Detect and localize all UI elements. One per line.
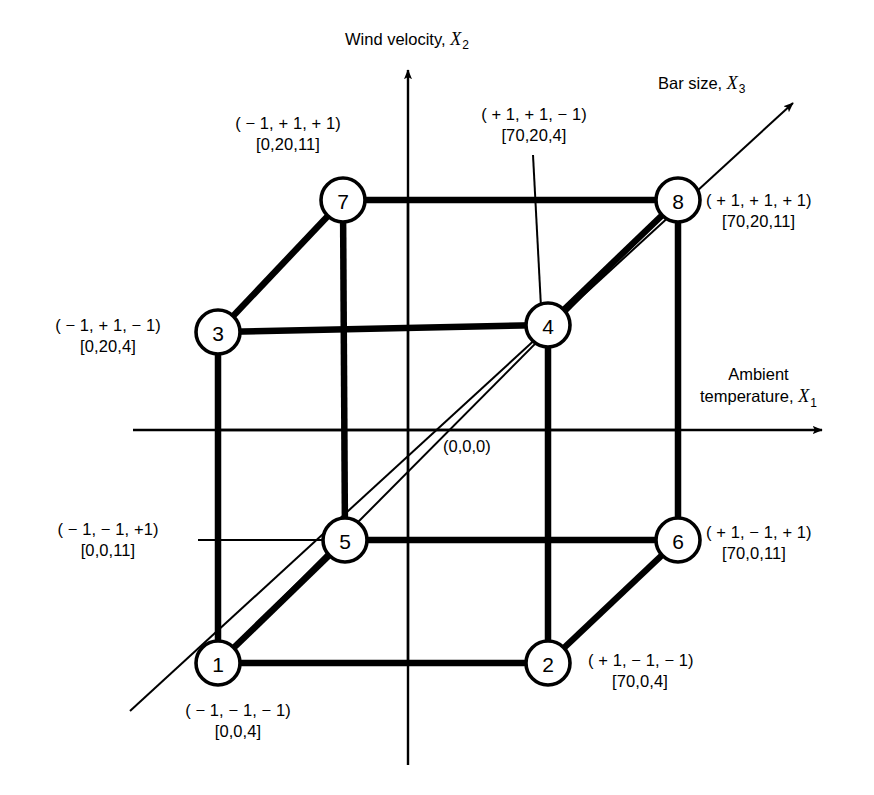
edge-7-5: [343, 200, 345, 540]
axis-label-x3: Bar size, X3: [658, 72, 745, 98]
vertex-caption-8-natural: [70,20,11]: [706, 211, 812, 232]
axis-label-x3-subscript: 3: [738, 82, 746, 96]
vertex-node-6[interactable]: 6: [656, 518, 700, 562]
vertex-caption-1-coded: ( − 1, − 1, − 1): [185, 701, 291, 719]
vertex-caption-6: ( + 1, − 1, + 1) [70,0,11]: [706, 522, 812, 564]
vertex-caption-8: ( + 1, + 1, + 1) [70,20,11]: [706, 190, 812, 232]
axis-label-x2-comma: ,: [441, 30, 450, 48]
vertex-number-2: 2: [542, 653, 554, 676]
axis-label-x1-comma: ,: [789, 387, 798, 405]
vertex-caption-3-coded: ( − 1, + 1, − 1): [55, 316, 161, 334]
vertex-caption-8-coded: ( + 1, + 1, + 1): [706, 191, 812, 209]
vertex-caption-6-natural: [70,0,11]: [706, 543, 812, 564]
vertex-caption-6-coded: ( + 1, − 1, + 1): [706, 523, 812, 541]
vertex-caption-2-coded: ( + 1, − 1, − 1): [588, 651, 694, 669]
vertex-node-4[interactable]: 4: [526, 303, 570, 347]
vertex-node-1[interactable]: 1: [196, 641, 240, 685]
vertex-caption-2-natural: [70,0,4]: [588, 671, 694, 692]
vertex-node-2[interactable]: 2: [526, 641, 570, 685]
axis-x3-overlay: [218, 200, 678, 663]
edge-2-6: [548, 540, 678, 663]
leader-line-vertex-4: [533, 155, 541, 307]
axis-label-x1-symbol: X: [798, 386, 809, 406]
vertex-node-3[interactable]: 3: [196, 310, 240, 354]
axis-label-x2-text: Wind velocity: [345, 30, 441, 48]
axis-overlay: [218, 200, 678, 663]
design-cube-diagram: 1 2 3 4 5 6 7: [0, 0, 874, 795]
axis-label-x1-line2: temperature: [700, 387, 789, 405]
vertex-number-8: 8: [672, 190, 684, 213]
vertex-node-8[interactable]: 8: [656, 178, 700, 222]
axis-label-x3-symbol: X: [727, 73, 738, 93]
vertex-caption-7: ( − 1, + 1, + 1) [0,20,11]: [182, 113, 394, 155]
axis-label-x1-line1: Ambient: [728, 365, 789, 383]
edge-4-3: [218, 325, 548, 332]
vertex-caption-7-natural: [0,20,11]: [182, 134, 394, 155]
vertex-caption-5: ( − 1, − 1, +1) [0,0,11]: [18, 519, 198, 561]
vertex-caption-4-natural: [70,20,4]: [428, 125, 640, 146]
vertex-node-7[interactable]: 7: [321, 178, 365, 222]
vertex-caption-5-natural: [0,0,11]: [18, 540, 198, 561]
vertex-number-6: 6: [672, 530, 684, 553]
axis-label-x1: Ambient temperature, X1: [700, 364, 817, 411]
axis-label-x2-subscript: 2: [461, 38, 469, 52]
axis-label-x2: Wind velocity, X2: [345, 28, 469, 54]
axis-label-x1-subscript: 1: [809, 396, 817, 410]
vertex-caption-3: ( − 1, + 1, − 1) [0,20,4]: [24, 315, 192, 357]
vertex-caption-1: ( − 1, − 1, − 1) [0,0,4]: [148, 700, 328, 742]
vertex-number-1: 1: [212, 653, 224, 676]
vertex-caption-2: ( + 1, − 1, − 1) [70,0,4]: [588, 650, 694, 692]
vertex-number-4: 4: [542, 315, 554, 338]
origin-label: (0,0,0): [443, 437, 491, 456]
vertex-caption-4: ( + 1, + 1, − 1) [70,20,4]: [428, 104, 640, 146]
vertex-caption-5-coded: ( − 1, − 1, +1): [57, 520, 158, 538]
vertex-number-3: 3: [212, 322, 224, 345]
axis-label-x2-symbol: X: [450, 29, 461, 49]
vertex-caption-1-natural: [0,0,4]: [148, 721, 328, 742]
edge-3-7: [218, 200, 343, 332]
vertex-number-7: 7: [337, 190, 349, 213]
vertex-caption-3-natural: [0,20,4]: [24, 336, 192, 357]
vertex-number-5: 5: [339, 530, 351, 553]
vertex-caption-4-coded: ( + 1, + 1, − 1): [481, 105, 587, 123]
axis-label-x3-text: Bar size: [658, 74, 718, 92]
axis-label-x3-comma: ,: [718, 74, 727, 92]
vertex-node-5[interactable]: 5: [323, 518, 367, 562]
vertex-caption-7-coded: ( − 1, + 1, + 1): [235, 114, 341, 132]
